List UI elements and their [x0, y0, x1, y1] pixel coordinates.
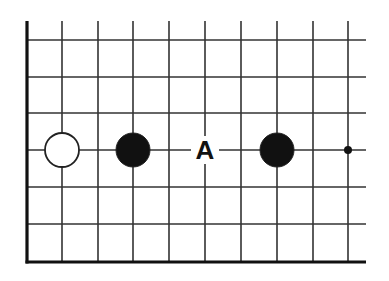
point-label-a: A — [196, 135, 215, 165]
point-labels: A — [191, 135, 219, 165]
star-point — [344, 146, 352, 154]
star-points — [344, 146, 352, 154]
black-stone — [260, 133, 294, 167]
go-board-diagram: A — [0, 0, 389, 281]
white-stone — [45, 133, 79, 167]
black-stone — [116, 133, 150, 167]
